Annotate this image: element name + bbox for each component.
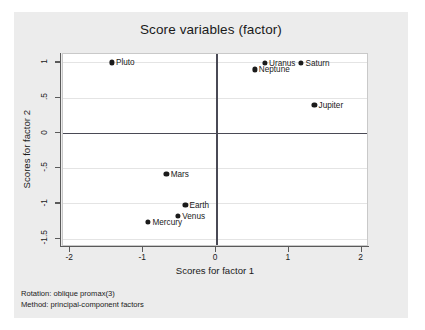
y-axis-line (60, 53, 61, 247)
zero-line-horizontal (63, 133, 367, 135)
y-tick-mark (55, 132, 60, 133)
y-tick-mark (55, 202, 60, 203)
y-tick-mark (55, 167, 60, 168)
y-axis-title-text: Scores for factor 2 (21, 110, 32, 188)
y-tick-mark (55, 61, 60, 62)
y-tick-label-text: -.5 (40, 162, 48, 172)
data-point[interactable] (146, 219, 151, 224)
data-point[interactable] (252, 67, 257, 72)
x-tick-label: 0 (213, 253, 218, 261)
data-point[interactable] (299, 61, 304, 66)
footnotes: Rotation: oblique promax(3) Method: prin… (21, 289, 144, 310)
y-tick-label-text: 1 (40, 59, 48, 64)
data-point-label: Neptune (259, 65, 290, 74)
y-tick-label: -1 (36, 189, 53, 215)
y-tick-label: 0 (36, 119, 53, 145)
data-point[interactable] (109, 60, 114, 65)
data-point-label: Pluto (116, 58, 135, 67)
y-tick-label: -.5 (36, 154, 53, 180)
y-tick-mark (55, 238, 60, 239)
y-tick-label-text: -1 (40, 199, 48, 206)
data-point-label: Jupiter (319, 100, 344, 109)
gridline (63, 239, 367, 240)
gridline (63, 98, 367, 99)
y-tick-label: 1 (36, 48, 53, 74)
data-point-label: Earth (190, 200, 210, 209)
y-tick-label: -1.5 (36, 225, 53, 251)
x-tick-label: -1 (138, 253, 145, 261)
data-point-label: Venus (182, 212, 205, 221)
y-tick-label: .5 (36, 84, 53, 110)
y-axis-title: Scores for factor 2 (19, 53, 33, 246)
data-point-label: Saturn (305, 59, 329, 68)
y-tick-label-text: -1.5 (40, 230, 48, 244)
graph-region: Score variables (factor) PlutoUranusSatu… (14, 12, 408, 318)
x-axis-title: Scores for factor 1 (62, 265, 368, 276)
y-tick-label-text: 0 (40, 130, 48, 135)
data-point[interactable] (164, 171, 169, 176)
footnote-method: Method: principal-component factors (21, 300, 144, 310)
y-tick-label-text: .5 (40, 93, 48, 100)
zero-line-vertical (216, 54, 218, 245)
data-point-label: Mercury (152, 217, 182, 226)
x-tick-label: -2 (66, 253, 73, 261)
data-point-label: Mars (171, 169, 189, 178)
gridline (63, 203, 367, 204)
gridline (63, 168, 367, 169)
plot-area: PlutoUranusSaturnNeptuneJupiterMarsEarth… (62, 53, 368, 246)
y-tick-mark (55, 97, 60, 98)
chart-title: Score variables (factor) (14, 22, 408, 37)
x-tick-label: 2 (358, 253, 363, 261)
data-point[interactable] (183, 202, 188, 207)
data-point[interactable] (312, 102, 317, 107)
footnote-rotation: Rotation: oblique promax(3) (21, 289, 144, 299)
x-tick-label: 1 (286, 253, 291, 261)
